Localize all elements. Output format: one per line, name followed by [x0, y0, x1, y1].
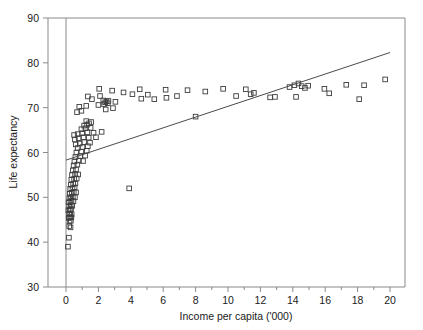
y-tick-label: 30 — [27, 281, 39, 293]
y-axis-title: Life expectancy — [7, 115, 19, 189]
x-tick-label: 20 — [384, 294, 396, 306]
x-tick-label: 14 — [287, 294, 299, 306]
x-tick-label: 4 — [128, 294, 134, 306]
scatter-plot-svg: 02468101214161820 30405060708090 Income … — [0, 0, 423, 330]
scatter-chart-figure: 02468101214161820 30405060708090 Income … — [0, 0, 423, 330]
x-tick-label: 18 — [352, 294, 364, 306]
x-tick-label: 0 — [63, 294, 69, 306]
x-tick-label: 6 — [160, 294, 166, 306]
y-tick-label: 70 — [27, 102, 39, 114]
y-tick-label: 50 — [27, 191, 39, 203]
y-tick-label: 90 — [27, 12, 39, 24]
x-tick-label: 10 — [222, 294, 234, 306]
x-tick-label: 16 — [319, 294, 331, 306]
x-tick-label: 8 — [193, 294, 199, 306]
y-tick-label: 60 — [27, 147, 39, 159]
x-tick-label: 12 — [255, 294, 267, 306]
y-tick-label: 40 — [27, 236, 39, 248]
x-tick-label: 2 — [95, 294, 101, 306]
chart-background — [0, 0, 423, 330]
x-axis-title: Income per capita ('000) — [180, 310, 293, 322]
y-tick-label: 80 — [27, 57, 39, 69]
